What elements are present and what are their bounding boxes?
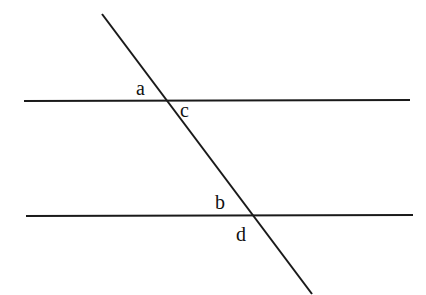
angle-label-c: c	[180, 100, 189, 120]
top-parallel-line	[24, 100, 410, 101]
diagram-canvas: a c b d	[0, 0, 426, 295]
angle-label-a: a	[136, 78, 145, 98]
transversal-line	[102, 14, 312, 294]
angle-label-d: d	[236, 224, 246, 244]
diagram-svg	[0, 0, 426, 295]
angle-label-b: b	[215, 192, 225, 212]
bottom-parallel-line	[26, 215, 413, 216]
